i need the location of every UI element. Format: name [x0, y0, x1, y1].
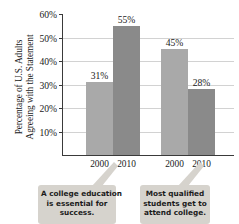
callout-1-line-3: success. [41, 208, 113, 218]
callout-2-line-3: attend college. [143, 208, 207, 218]
callout-bubble-1[interactable]: A college education is essential for suc… [38, 185, 116, 224]
tick-mark [59, 61, 63, 62]
bar-value-group1-2000: 31% [91, 70, 109, 81]
tick-mark [59, 38, 63, 39]
bar-value-group2-2010: 28% [193, 77, 211, 88]
bar-group2-2000[interactable] [161, 49, 188, 155]
y-axis-title-line-2: Agreeing with the Statement [25, 35, 37, 140]
callout-bubble-2[interactable]: Most qualified students get to attend co… [140, 185, 210, 224]
tick-mark [59, 108, 63, 109]
y-axis-title-line-1: Percentage of U.S. Adults [14, 40, 26, 135]
y-tick-label: 40% [39, 56, 57, 67]
y-tick-label: 20% [39, 103, 57, 114]
tick-mark [59, 132, 63, 133]
gridline [63, 38, 234, 39]
bar-group1-2010[interactable] [113, 26, 140, 155]
gridline [63, 61, 234, 62]
y-axis-title: Percentage of U.S. Adults Agreeing with … [11, 11, 39, 163]
callout-2-line-1: Most qualified [143, 189, 207, 199]
tick-mark [59, 85, 63, 86]
callout-1-line-1: A college education [41, 189, 113, 199]
callout-1-line-2: is essential for [41, 199, 113, 209]
callout-2-line-2: students get to [143, 199, 207, 209]
y-tick-label: 60% [39, 9, 57, 20]
y-tick-label: 10% [39, 126, 57, 137]
bar-group2-2010[interactable] [188, 89, 215, 155]
bar-value-group2-2000: 45% [166, 37, 184, 48]
plot-area: 60% 50% 40% 30% 20% 10% [62, 14, 234, 155]
y-tick-label: 30% [39, 79, 57, 90]
callout-1-pointer-tail [92, 162, 122, 188]
callout-2-pointer-tail [178, 162, 208, 188]
tick-mark [59, 14, 63, 15]
bar-chart-figure: Percentage of U.S. Adults Agreeing with … [0, 0, 239, 224]
y-tick-label: 50% [39, 32, 57, 43]
x-axis-line [62, 155, 234, 156]
bar-value-group1-2010: 55% [118, 14, 136, 25]
bar-group1-2000[interactable] [86, 82, 113, 155]
